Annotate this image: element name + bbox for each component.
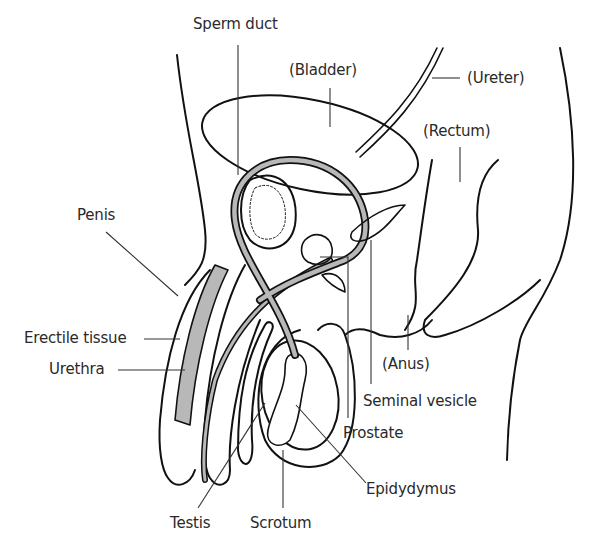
scrotum-outline bbox=[258, 324, 355, 467]
label-sperm-duct: Sperm duct bbox=[193, 17, 278, 32]
back-outline bbox=[507, 48, 573, 460]
label-ureter: (Ureter) bbox=[467, 71, 524, 86]
label-bladder: (Bladder) bbox=[289, 63, 357, 78]
label-prostate: Prostate bbox=[343, 426, 403, 441]
abdomen-outline bbox=[177, 55, 206, 285]
rectum-outline bbox=[405, 160, 432, 330]
label-urethra: Urethra bbox=[49, 362, 104, 377]
label-testis: Testis bbox=[170, 516, 210, 531]
leader-prostate bbox=[320, 257, 348, 418]
label-seminal-vesicle: Seminal vesicle bbox=[363, 394, 477, 409]
epidydymus-shape bbox=[268, 354, 307, 445]
erectile-tissue-shade bbox=[175, 265, 228, 425]
leader-penis bbox=[106, 232, 178, 296]
label-penis: Penis bbox=[77, 208, 115, 223]
label-erectile-tissue: Erectile tissue bbox=[24, 331, 126, 346]
bladder-shape bbox=[193, 78, 427, 212]
label-scrotum: Scrotum bbox=[250, 516, 311, 531]
label-epidydymus: Epidydymus bbox=[366, 482, 456, 497]
label-anus: (Anus) bbox=[382, 357, 430, 372]
leader-epidydymus bbox=[296, 405, 366, 483]
label-rectum: (Rectum) bbox=[423, 124, 490, 139]
pubic-bone bbox=[241, 176, 296, 249]
ureter-tube bbox=[360, 48, 443, 157]
